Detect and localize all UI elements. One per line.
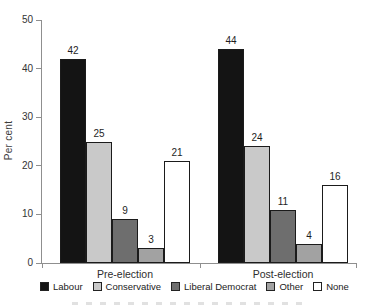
bar-value-label: 25 bbox=[86, 128, 112, 139]
bar-value-label: 3 bbox=[138, 234, 164, 245]
y-axis-tick-label: 40 bbox=[9, 63, 33, 75]
bar-liberal-democrat bbox=[112, 219, 138, 263]
bar-other bbox=[138, 248, 164, 263]
legend-item-labour: Labour bbox=[40, 281, 83, 292]
bar-value-label: 16 bbox=[322, 171, 348, 182]
x-axis-tick bbox=[356, 263, 357, 268]
bar-chart-figure: Per cent 0102030405042259321Pre-election… bbox=[0, 0, 371, 307]
bar-value-label: 44 bbox=[218, 35, 244, 46]
bar-other bbox=[296, 244, 322, 263]
bar-value-label: 24 bbox=[244, 132, 270, 143]
plot-area: 0102030405042259321Pre-election442411416… bbox=[41, 20, 356, 264]
bar-value-label: 11 bbox=[270, 196, 296, 207]
legend-label: Liberal Democrat bbox=[184, 281, 256, 292]
legend-swatch bbox=[313, 282, 322, 291]
bar-none bbox=[164, 161, 190, 263]
y-axis-tick bbox=[36, 117, 41, 118]
x-axis-tick bbox=[200, 263, 201, 268]
legend-swatch bbox=[40, 282, 49, 291]
chart-legend: LabourConservativeLiberal DemocratOtherN… bbox=[40, 281, 364, 292]
y-axis-tick bbox=[36, 263, 41, 264]
legend-item-other: Other bbox=[266, 281, 303, 292]
bar-labour bbox=[60, 59, 86, 263]
bar-liberal-democrat bbox=[270, 210, 296, 263]
y-axis-tick bbox=[36, 214, 41, 215]
x-axis-tick bbox=[42, 263, 43, 268]
y-axis-tick-label: 20 bbox=[9, 160, 33, 172]
legend-label: Conservative bbox=[106, 281, 161, 292]
bar-value-label: 21 bbox=[164, 147, 190, 158]
y-axis-tick bbox=[36, 20, 41, 21]
y-axis-tick bbox=[36, 165, 41, 166]
bar-value-label: 9 bbox=[112, 205, 138, 216]
legend-swatch bbox=[93, 282, 102, 291]
y-axis-tick-label: 10 bbox=[9, 208, 33, 220]
y-axis-tick-label: 30 bbox=[9, 111, 33, 123]
legend-swatch bbox=[266, 282, 275, 291]
bar-labour bbox=[218, 49, 244, 263]
y-axis-tick-label: 0 bbox=[9, 257, 33, 269]
legend-item-conservative: Conservative bbox=[93, 281, 161, 292]
legend-swatch bbox=[171, 282, 180, 291]
category-label: Pre-election bbox=[70, 268, 180, 280]
cropped-caption-remnant bbox=[72, 302, 304, 305]
category-label: Post-election bbox=[228, 268, 338, 280]
bar-conservative bbox=[86, 142, 112, 264]
bar-value-label: 42 bbox=[60, 45, 86, 56]
y-axis-tick bbox=[36, 68, 41, 69]
legend-label: None bbox=[326, 281, 349, 292]
bar-conservative bbox=[244, 146, 270, 263]
bar-value-label: 4 bbox=[296, 230, 322, 241]
legend-item-liberal-democrat: Liberal Democrat bbox=[171, 281, 256, 292]
legend-label: Labour bbox=[53, 281, 83, 292]
legend-label: Other bbox=[279, 281, 303, 292]
legend-item-none: None bbox=[313, 281, 349, 292]
bar-none bbox=[322, 185, 348, 263]
y-axis-tick-label: 50 bbox=[9, 14, 33, 26]
